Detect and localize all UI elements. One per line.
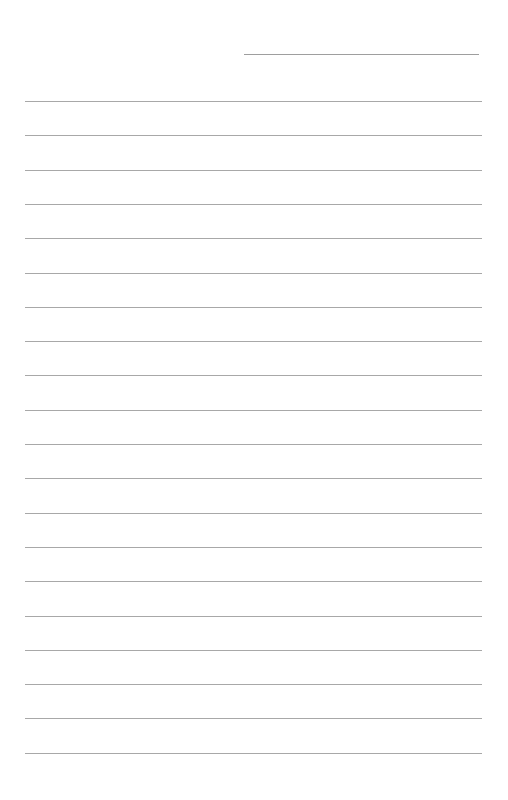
writing-line bbox=[25, 273, 482, 274]
writing-line bbox=[25, 581, 482, 582]
writing-line bbox=[25, 410, 482, 411]
writing-line bbox=[25, 341, 482, 342]
writing-line bbox=[25, 684, 482, 685]
writing-line bbox=[25, 238, 482, 239]
writing-line bbox=[25, 307, 482, 308]
lined-paper-page bbox=[0, 0, 508, 800]
writing-line bbox=[25, 135, 482, 136]
writing-line bbox=[25, 616, 482, 617]
writing-line bbox=[25, 444, 482, 445]
writing-line bbox=[25, 718, 482, 719]
writing-line bbox=[25, 547, 482, 548]
writing-line bbox=[25, 753, 482, 754]
writing-line bbox=[25, 170, 482, 171]
writing-line bbox=[25, 204, 482, 205]
writing-line bbox=[25, 650, 482, 651]
writing-line bbox=[25, 101, 482, 102]
header-write-line bbox=[244, 54, 479, 55]
writing-line bbox=[25, 513, 482, 514]
writing-line bbox=[25, 375, 482, 376]
writing-line bbox=[25, 478, 482, 479]
